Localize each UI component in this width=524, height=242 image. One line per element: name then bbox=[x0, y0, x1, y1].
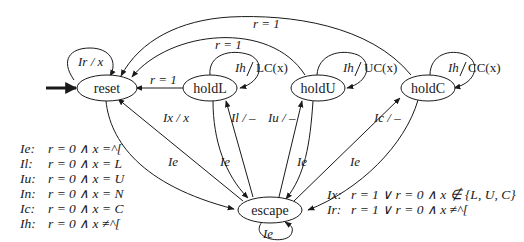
slash-holdC bbox=[460, 62, 466, 76]
label-holdL-self-output: LC(x) bbox=[256, 60, 288, 75]
legend-expr: r = 0 ∧ x ≠^[ bbox=[48, 216, 120, 231]
legend-expr: r = 0 ∧ x = U bbox=[48, 171, 124, 186]
label-holdL-to-escape: Ie bbox=[219, 154, 230, 169]
legend-expr: r = 0 ∧ x = L bbox=[48, 156, 122, 171]
legend-expr: r = 0 ∧ x =^[ bbox=[48, 141, 122, 156]
legend-key: Ir: bbox=[327, 202, 351, 217]
label-reset-self: Ir / x bbox=[77, 54, 104, 69]
legend-row: Il:r = 0 ∧ x = L bbox=[20, 156, 124, 171]
legend-row: Ih:r = 0 ∧ x ≠^[ bbox=[20, 216, 124, 231]
label-holdC-self-input: Ih bbox=[447, 60, 459, 75]
state-holdU-label: holdU bbox=[301, 81, 336, 96]
legend-key: Ic: bbox=[20, 201, 48, 216]
state-holdC-label: holdC bbox=[411, 81, 445, 96]
legend-expr: r = 0 ∧ x = C bbox=[48, 201, 123, 216]
legend-row: Ie:r = 0 ∧ x =^[ bbox=[20, 141, 124, 156]
slash-holdL bbox=[247, 62, 253, 76]
legend-row: In:r = 0 ∧ x = N bbox=[20, 186, 124, 201]
label-escape-to-reset: Ix / x bbox=[162, 110, 189, 125]
state-holdL-label: holdL bbox=[193, 81, 226, 96]
state-escape-label: escape bbox=[251, 203, 288, 218]
legend-key: Ie: bbox=[20, 141, 48, 156]
legend-key: Ix: bbox=[327, 187, 351, 202]
label-holdC-self-output: CC(x) bbox=[468, 60, 501, 75]
legend-key: In: bbox=[20, 186, 48, 201]
label-holdU-self-output: UC(x) bbox=[364, 60, 397, 75]
label-holdC-to-reset: r = 1 bbox=[253, 16, 280, 31]
label-escape-self: Ie bbox=[262, 226, 273, 241]
legend-row: Ix:r = 1 ∨ r = 0 ∧ x ∉ {L, U, C} bbox=[327, 187, 516, 202]
label-reset-to-escape: Ie bbox=[167, 154, 178, 169]
legend-row: Ir:r = 1 ∨ r = 0 ∧ x ≠^[ bbox=[327, 202, 516, 217]
label-holdU-to-reset: r = 1 bbox=[215, 37, 242, 52]
legend-key: Ih: bbox=[20, 216, 48, 231]
legend-right: Ix:r = 1 ∨ r = 0 ∧ x ∉ {L, U, C} Ir:r = … bbox=[327, 187, 516, 217]
legend-left: Ie:r = 0 ∧ x =^[ Il:r = 0 ∧ x = L Iu:r =… bbox=[20, 141, 124, 231]
label-escape-to-holdC: Ic / – bbox=[373, 110, 401, 125]
label-holdU-to-escape: Ie bbox=[296, 154, 307, 169]
label-holdL-to-reset: r = 1 bbox=[150, 72, 177, 87]
label-holdU-self-input: Ih bbox=[342, 60, 354, 75]
legend-row: Ic:r = 0 ∧ x = C bbox=[20, 201, 124, 216]
legend-key: Iu: bbox=[20, 171, 48, 186]
label-escape-to-holdU: Iu / – bbox=[267, 110, 296, 125]
slash-holdU bbox=[355, 62, 361, 76]
legend-expr: r = 0 ∧ x = N bbox=[48, 186, 123, 201]
label-holdC-to-escape: Ie bbox=[349, 154, 360, 169]
label-holdL-self-input: Ih bbox=[234, 60, 246, 75]
legend-expr: r = 1 ∨ r = 0 ∧ x ∉ {L, U, C} bbox=[351, 187, 516, 202]
legend-key: Il: bbox=[20, 156, 48, 171]
state-reset-label: reset bbox=[94, 81, 121, 96]
legend-row: Iu:r = 0 ∧ x = U bbox=[20, 171, 124, 186]
legend-expr: r = 1 ∨ r = 0 ∧ x ≠^[ bbox=[351, 202, 468, 217]
label-escape-to-holdL: Il / – bbox=[230, 110, 256, 125]
